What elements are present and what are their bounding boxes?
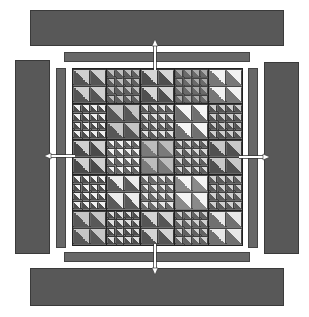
half-square-triangle xyxy=(175,148,183,157)
half-square-triangle xyxy=(90,192,98,201)
half-square-triangle xyxy=(192,104,209,121)
half-square-triangle xyxy=(81,122,89,131)
half-square-triangle xyxy=(166,184,174,193)
quilt-block-large xyxy=(209,211,242,245)
half-square-triangle xyxy=(141,157,158,174)
half-square-triangle xyxy=(200,140,208,149)
half-square-triangle xyxy=(107,95,115,104)
quilt-block-large xyxy=(73,140,106,174)
half-square-triangle xyxy=(107,175,124,192)
half-square-triangle xyxy=(192,228,200,237)
half-square-triangle xyxy=(209,192,217,201)
half-square-triangle xyxy=(149,122,157,131)
half-square-triangle xyxy=(183,69,191,78)
half-square-triangle xyxy=(226,86,243,103)
half-square-triangle xyxy=(192,140,200,149)
half-square-triangle xyxy=(73,69,90,86)
half-square-triangle xyxy=(90,104,98,113)
half-square-triangle xyxy=(192,157,200,166)
half-square-triangle xyxy=(192,192,209,209)
half-square-triangle xyxy=(107,104,124,121)
half-square-triangle xyxy=(192,175,209,192)
half-square-triangle xyxy=(124,236,132,245)
quilt-block-small xyxy=(175,211,208,245)
half-square-triangle xyxy=(90,140,107,157)
arrow-right-icon xyxy=(239,152,271,162)
half-square-triangle xyxy=(234,192,242,201)
half-square-triangle xyxy=(73,175,81,184)
half-square-triangle xyxy=(183,211,191,220)
half-square-triangle xyxy=(73,140,90,157)
half-square-triangle xyxy=(132,228,140,237)
half-square-triangle xyxy=(107,166,115,175)
half-square-triangle xyxy=(200,211,208,220)
quilt-block-small xyxy=(73,175,106,209)
half-square-triangle xyxy=(90,211,107,228)
half-square-triangle xyxy=(107,69,115,78)
half-square-triangle xyxy=(141,211,158,228)
half-square-triangle xyxy=(132,86,140,95)
quilt-block-large xyxy=(107,104,140,138)
half-square-triangle xyxy=(209,175,217,184)
half-square-triangle xyxy=(141,130,149,139)
half-square-triangle xyxy=(115,78,123,87)
half-square-triangle xyxy=(200,148,208,157)
quilt-block-large xyxy=(141,69,174,103)
half-square-triangle xyxy=(73,184,81,193)
half-square-triangle xyxy=(192,95,200,104)
quilt-block-small xyxy=(107,69,140,103)
half-square-triangle xyxy=(209,86,226,103)
half-square-triangle xyxy=(107,157,115,166)
half-square-triangle xyxy=(175,192,192,209)
half-square-triangle xyxy=(217,130,225,139)
half-square-triangle xyxy=(158,130,166,139)
half-square-triangle xyxy=(209,69,226,86)
quilt-block-small xyxy=(175,69,208,103)
half-square-triangle xyxy=(200,86,208,95)
half-square-triangle xyxy=(98,113,106,122)
half-square-triangle xyxy=(132,69,140,78)
half-square-triangle xyxy=(200,78,208,87)
half-square-triangle xyxy=(124,175,141,192)
half-square-triangle xyxy=(158,211,175,228)
quilt-block-small xyxy=(107,211,140,245)
half-square-triangle xyxy=(166,104,174,113)
half-square-triangle xyxy=(90,175,98,184)
half-square-triangle xyxy=(217,192,225,201)
half-square-triangle xyxy=(115,236,123,245)
half-square-triangle xyxy=(124,140,132,149)
half-square-triangle xyxy=(158,175,166,184)
half-square-triangle xyxy=(141,201,149,210)
half-square-triangle xyxy=(141,86,158,103)
half-square-triangle xyxy=(90,86,107,103)
half-square-triangle xyxy=(90,184,98,193)
half-square-triangle xyxy=(149,184,157,193)
half-square-triangle xyxy=(175,104,192,121)
half-square-triangle xyxy=(141,104,149,113)
half-square-triangle xyxy=(107,211,115,220)
half-square-triangle xyxy=(226,122,234,131)
half-square-triangle xyxy=(81,201,89,210)
half-square-triangle xyxy=(124,122,141,139)
half-square-triangle xyxy=(107,219,115,228)
half-square-triangle xyxy=(175,157,183,166)
half-square-triangle xyxy=(73,228,90,245)
half-square-triangle xyxy=(209,140,226,157)
half-square-triangle xyxy=(234,184,242,193)
half-square-triangle xyxy=(192,236,200,245)
half-square-triangle xyxy=(73,211,90,228)
half-square-triangle xyxy=(132,236,140,245)
half-square-triangle xyxy=(209,113,217,122)
half-square-triangle xyxy=(107,228,115,237)
half-square-triangle xyxy=(192,78,200,87)
half-square-triangle xyxy=(81,130,89,139)
half-square-triangle xyxy=(124,219,132,228)
half-square-triangle xyxy=(158,201,166,210)
half-square-triangle xyxy=(226,192,234,201)
half-square-triangle xyxy=(81,184,89,193)
half-square-triangle xyxy=(200,95,208,104)
half-square-triangle xyxy=(149,192,157,201)
half-square-triangle xyxy=(158,157,175,174)
half-square-triangle xyxy=(175,166,183,175)
half-square-triangle xyxy=(175,236,183,245)
